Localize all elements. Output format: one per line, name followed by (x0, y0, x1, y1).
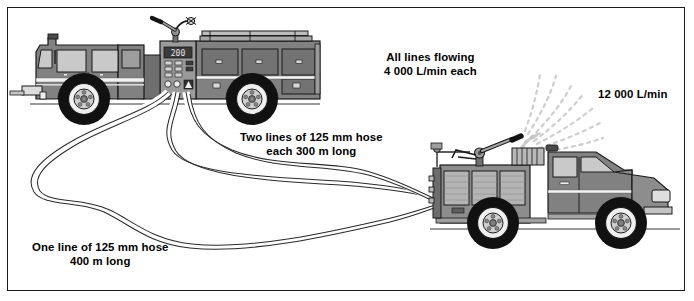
label-one-line: One line of 125 mm hose 400 m long (32, 240, 169, 268)
water-spray-fan (519, 74, 603, 155)
diagram-canvas: 200 (0, 0, 694, 301)
wheel-rear-right-truck (467, 197, 519, 249)
attack-engine-truck (429, 136, 680, 249)
supply-engine-truck: 200 (10, 17, 320, 125)
label-two-lines: Two lines of 125 mm hose each 300 m long (240, 130, 383, 158)
wheel-rear-left-truck (226, 73, 278, 125)
svg-text:200: 200 (171, 49, 186, 58)
deck-gun-right (452, 136, 521, 166)
wheel-front-right-truck (595, 197, 647, 249)
label-total-flow: 12 000 L/min (598, 87, 668, 101)
label-all-lines-flowing: All lines flowing 4 000 L/min each (384, 50, 477, 78)
deck-gun-left (152, 17, 196, 42)
wheel-front-left-truck (58, 73, 110, 125)
